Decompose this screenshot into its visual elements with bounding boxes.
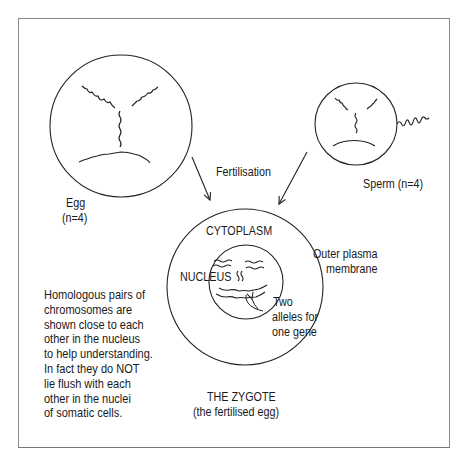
- egg-count: (n=4): [62, 211, 87, 226]
- arrow-from-sperm: [279, 152, 307, 204]
- membrane-label-line2: membrane: [326, 262, 377, 277]
- egg-cell: [50, 55, 192, 197]
- alleles-label-line3: one gene: [272, 325, 317, 340]
- arrow-from-egg: [192, 157, 210, 200]
- sperm-label: Sperm (n=4): [363, 177, 423, 192]
- alleles-label-line2: alleles for: [272, 310, 318, 325]
- nucleus-label: NUCLEUS: [180, 270, 231, 285]
- explanatory-note: Homologous pairs of chromosomes are show…: [44, 288, 153, 421]
- sperm-cell: [315, 83, 429, 165]
- egg-label: Egg: [66, 196, 85, 211]
- alleles-label-line1: Two: [273, 295, 293, 310]
- membrane-label-line1: Outer plasma: [313, 247, 378, 262]
- zygote-title: THE ZYGOTE: [207, 390, 276, 405]
- fertilisation-label: Fertilisation: [216, 165, 271, 180]
- zygote-subtitle: (the fertilised egg): [193, 405, 279, 420]
- cytoplasm-label: CYTOPLASM: [206, 224, 272, 239]
